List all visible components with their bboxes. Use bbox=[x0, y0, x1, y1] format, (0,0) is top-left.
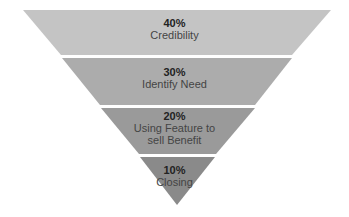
stage-1-label: Credibility bbox=[0, 29, 349, 41]
stage-4-label: Closing bbox=[0, 176, 349, 188]
stage-2-percent: 30% bbox=[0, 66, 349, 78]
stage-4-percent: 10% bbox=[0, 164, 349, 176]
stage-3-label-line2: sell Benefit bbox=[0, 134, 349, 146]
stage-2-label: Identify Need bbox=[0, 78, 349, 90]
funnel-stage-1: 40% Credibility bbox=[0, 17, 349, 41]
stage-3-percent: 20% bbox=[0, 110, 349, 122]
funnel-stage-4: 10% Closing bbox=[0, 164, 349, 188]
stage-3-label-line1: Using Feature to bbox=[0, 122, 349, 134]
funnel-stage-3: 20% Using Feature to sell Benefit bbox=[0, 110, 349, 146]
stage-1-percent: 40% bbox=[0, 17, 349, 29]
funnel-stage-2: 30% Identify Need bbox=[0, 66, 349, 90]
